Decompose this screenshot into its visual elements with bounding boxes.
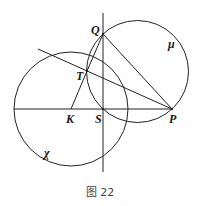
point-P-dot <box>171 108 173 110</box>
point-Q-dot <box>102 33 104 35</box>
label-Q: Q <box>91 23 100 37</box>
segment-T-Q <box>87 34 103 71</box>
point-S-dot <box>102 108 104 110</box>
figure-caption: 图 22 <box>86 186 115 199</box>
label-K: K <box>65 112 75 126</box>
label-chi: χ <box>42 146 50 160</box>
point-T-dot <box>86 70 88 72</box>
label-P: P <box>169 112 177 126</box>
line-through-T-to-P <box>38 49 172 109</box>
label-S: S <box>95 112 102 126</box>
label-T: T <box>76 69 84 83</box>
geometry-figure: Q T K S P μ χ 图 22 <box>0 0 201 206</box>
label-mu: μ <box>167 37 175 51</box>
